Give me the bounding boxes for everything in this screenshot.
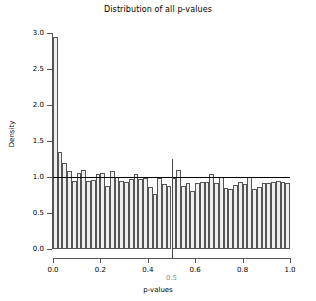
y-axis-tick-label: 0.0 [4,245,44,253]
x-axis-tick [243,258,244,263]
y-axis-tick [47,69,52,70]
histogram-bar [285,183,290,249]
y-axis-tick-label: 1.0 [4,173,44,181]
y-axis-tick [47,213,52,214]
chart-root: Distribution of all p-values 0.00.51.01.… [0,0,316,301]
y-axis-tick-label: 2.5 [4,65,44,73]
x-axis-tick-label: 0.2 [85,266,115,274]
y-axis-tick [47,249,52,250]
x-axis-tick [148,258,149,263]
x-axis-tick-label: 0.8 [228,266,258,274]
x-axis-tick-label: 0.4 [133,266,163,274]
y-axis-tick [47,141,52,142]
x-axis-tick [53,258,54,263]
threshold-label-0.5: 0.5 [157,274,187,282]
plot-area: 0.00.51.01.52.02.53.0 0.00.20.40.60.81.0… [0,0,316,301]
y-axis-tick-label: 0.5 [4,209,44,217]
x-axis-tick-label: 0.6 [180,266,210,274]
x-axis-tick [100,258,101,263]
y-axis-tick [47,33,52,34]
y-axis-tick-label: 3.0 [4,29,44,37]
y-axis-label: Density [8,104,16,164]
x-axis-tick-label: 0.0 [38,266,68,274]
threshold-line-p-0.5 [172,159,173,258]
x-axis-tick-label: 1.0 [275,266,305,274]
y-axis-tick [47,177,52,178]
x-axis-line [53,258,290,259]
x-axis-tick [290,258,291,263]
y-axis-tick [47,105,52,106]
x-axis-tick [195,258,196,263]
x-axis-label: p-values [0,286,316,294]
